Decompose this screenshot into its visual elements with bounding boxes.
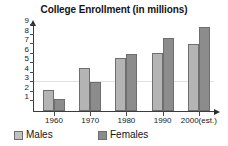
y-tick-7 (30, 43, 34, 44)
legend-item-males: Males (14, 130, 53, 140)
chart-legend: Males Females (14, 130, 214, 144)
x-axis-label-1980: 1980 (117, 116, 135, 125)
y-tick-3 (30, 81, 34, 82)
y-axis-line (33, 26, 34, 112)
x-axis-arrow-icon (214, 109, 220, 115)
y-axis-label-8: 8 (25, 27, 29, 35)
bar-males-2000est (188, 44, 199, 111)
y-axis-label-3: 3 (25, 74, 29, 82)
bar-females-1990 (163, 38, 174, 111)
y-axis-label-9: 9 (25, 17, 29, 25)
bar-males-1960 (43, 90, 54, 111)
plot-area: 123456789 (33, 26, 214, 112)
legend-swatch-males-icon (14, 131, 23, 140)
y-tick-6 (30, 53, 34, 54)
bar-females-2000est (199, 27, 210, 111)
y-tick-2 (30, 91, 34, 92)
chart-title: College Enrollment (in millions) (0, 4, 228, 15)
bar-males-1970 (79, 68, 90, 111)
legend-swatch-females-icon (98, 131, 107, 140)
y-axis-label-6: 6 (25, 46, 29, 54)
x-axis-line (33, 111, 214, 112)
bar-males-1990 (152, 53, 163, 111)
legend-label-females: Females (110, 130, 148, 140)
y-tick-9 (30, 24, 34, 25)
y-axis-arrow-icon (30, 20, 36, 26)
bar-males-1980 (115, 58, 126, 111)
x-axis-label-1970: 1970 (81, 116, 99, 125)
y-axis-label-5: 5 (25, 55, 29, 63)
y-axis-label-1: 1 (25, 93, 29, 101)
y-axis-label-4: 4 (25, 65, 29, 73)
y-tick-1 (30, 100, 34, 101)
bar-females-1960 (54, 99, 65, 111)
y-tick-8 (30, 34, 34, 35)
bar-females-1980 (126, 54, 137, 111)
college-enrollment-bar-chart: College Enrollment (in millions) 1234567… (0, 0, 228, 146)
x-axis-label-2000est: 2000(est.) (181, 116, 217, 125)
x-axis-label-1990: 1990 (154, 116, 172, 125)
legend-label-males: Males (26, 130, 53, 140)
bar-females-1970 (90, 82, 101, 111)
y-axis-label-7: 7 (25, 36, 29, 44)
y-tick-5 (30, 62, 34, 63)
legend-item-females: Females (98, 130, 148, 140)
y-axis-label-2: 2 (25, 84, 29, 92)
x-axis-label-1960: 1960 (45, 116, 63, 125)
y-tick-4 (30, 72, 34, 73)
